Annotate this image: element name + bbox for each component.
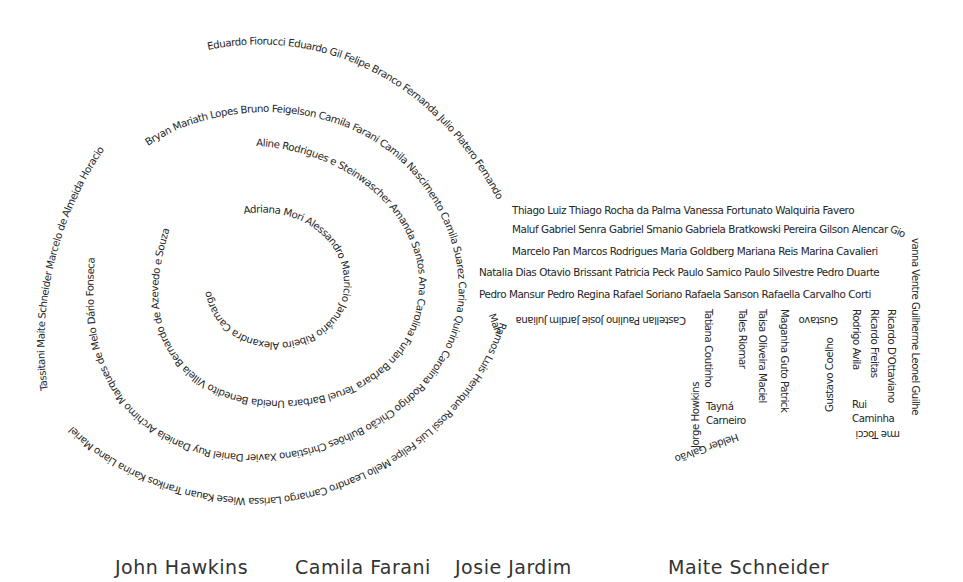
- arc-ring4: Adriana Mori Alessandro Mauricio Januári…: [202, 204, 353, 352]
- gustavo-top: Gustavo: [799, 315, 838, 326]
- col-jorge: Jorge Howkins: [690, 382, 701, 448]
- bottom-name-3: Josie Jardim: [455, 556, 572, 578]
- col-rodrigo: Rodrigo Avila: [851, 309, 862, 370]
- bottom-names-line: John Hawkins Camila Farani Josie Jardim …: [0, 556, 963, 582]
- col-maganha: Maganha Guto Patrick: [779, 309, 790, 412]
- bottom-name-1: John Hawkins: [115, 556, 248, 578]
- col-taisa: Taisa Oliveira Maciel: [757, 309, 768, 403]
- right-curl: rme Tocci: [856, 429, 900, 440]
- bottom-name-2: Camila Farani: [295, 556, 431, 578]
- bottom-name-4: Maite Schneider: [668, 556, 829, 578]
- row-4: Natalia Dias Otavio Brissant Patricia Pe…: [479, 266, 879, 278]
- row-1: Thiago Luiz Thiago Rocha da Palma Vaness…: [512, 204, 854, 216]
- col-tatiana: Tatiana Coutinho: [703, 309, 714, 387]
- arc-ring3: Aline Rodrigues e Steinwascher Amanda Sa…: [149, 137, 428, 410]
- upside-row: Castellan Paulino Josie Jardim Juliana: [516, 315, 686, 326]
- row-2: Maluf Gabriel Senra Gabriel Smanio Gabri…: [512, 223, 888, 235]
- rui-line-1: Rui: [852, 398, 867, 412]
- col-gustavo-coelho: Gustavo Coelho: [824, 338, 835, 412]
- col-tales: Tales Riomar: [737, 309, 748, 369]
- rui-line-2: Caminha: [852, 412, 894, 426]
- right-edge-column: vanna Ventre Guilherme Leonel Guilhe: [910, 238, 921, 415]
- col-ricardo-freitas: Ricardo Freitas: [869, 309, 880, 378]
- col-ricardo-dottaviano: Ricardo D'Ottaviano: [886, 309, 897, 403]
- tayna-line-1: Tayná: [706, 400, 734, 414]
- row-3: Marcelo Pan Marcos Rodrigues Maria Goldb…: [512, 245, 878, 257]
- tayna-line-2: Carneiro: [706, 414, 746, 428]
- row-5: Pedro Mansur Pedro Regina Rafael Soriano…: [479, 288, 871, 300]
